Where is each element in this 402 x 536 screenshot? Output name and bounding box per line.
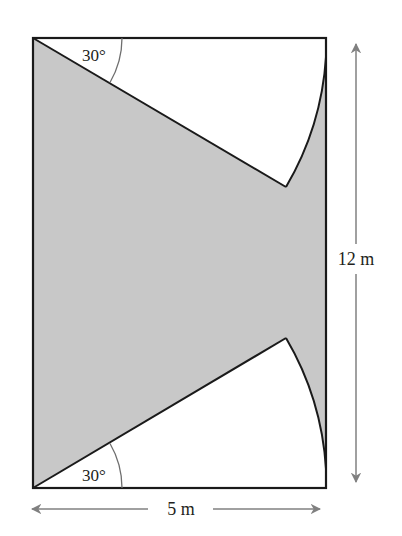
top-angle-label: 30° bbox=[82, 46, 106, 65]
width-label: 5 m bbox=[167, 499, 195, 519]
geometry-diagram: 30° 30° 12 m 5 m bbox=[0, 0, 402, 536]
bottom-angle-label: 30° bbox=[82, 466, 106, 485]
height-label: 12 m bbox=[338, 249, 375, 269]
